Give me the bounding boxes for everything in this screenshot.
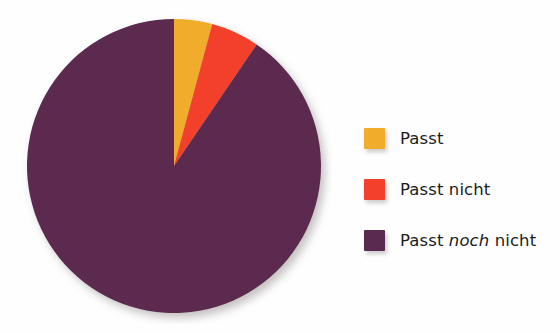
legend-swatch-passt-nicht <box>364 179 385 200</box>
legend-label-passt: Passt <box>400 129 443 148</box>
legend-color-swatch-icon <box>364 230 385 251</box>
legend-item-passt-nicht[interactable]: Passt nicht <box>364 177 554 201</box>
legend-label-emphasis: noch <box>449 231 489 250</box>
legend-item-passt-noch-nicht[interactable]: Passt noch nicht <box>364 228 554 252</box>
legend-color-swatch-icon <box>364 128 385 149</box>
legend-label-passt-nicht: Passt nicht <box>400 180 490 199</box>
legend-label-text: Passt <box>400 129 443 148</box>
legend-label-text: Passt <box>400 231 449 250</box>
legend-label-text: Passt nicht <box>400 180 490 199</box>
chart-legend: Passt Passt nicht Passt noch nicht <box>364 126 554 252</box>
pie-slices-group <box>27 19 321 313</box>
legend-color-swatch-icon <box>364 179 385 200</box>
pie-chart <box>22 14 332 324</box>
chart-page: Passt Passt nicht Passt noch nicht <box>0 0 560 333</box>
legend-swatch-passt-noch-nicht <box>364 230 385 251</box>
legend-label-text-tail: nicht <box>489 231 536 250</box>
legend-swatch-passt <box>364 128 385 149</box>
legend-item-passt[interactable]: Passt <box>364 126 554 150</box>
legend-label-passt-noch-nicht: Passt noch nicht <box>400 231 536 250</box>
pie-chart-svg <box>22 14 332 324</box>
